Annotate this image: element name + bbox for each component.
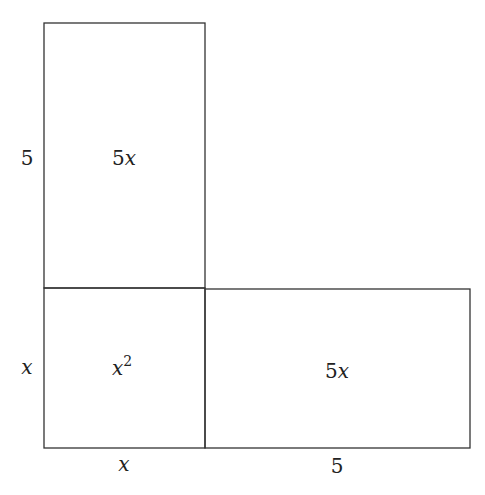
left-top-side-label: 5: [21, 146, 34, 170]
right-region-label: 5x: [325, 359, 349, 383]
bottom-right-side-label: 5: [331, 454, 344, 478]
bottom-left-side-label: x: [118, 452, 129, 476]
square-region-label: x2: [112, 353, 132, 380]
left-bottom-side-label: x: [21, 355, 32, 379]
area-model-diagram: 5x x2 5x 5 x x 5: [0, 0, 485, 495]
top-region-label: 5x: [112, 146, 136, 170]
